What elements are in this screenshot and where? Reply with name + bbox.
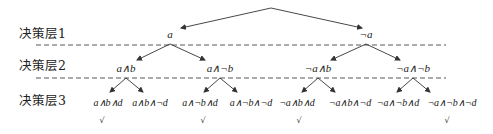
decision-tree-diagram: 决策层1 决策层2 决策层3 a ¬a a∧b a∧¬b ¬a∧b ¬a∧¬b … bbox=[0, 0, 493, 134]
edge-l2-3-left bbox=[302, 78, 318, 92]
edge-l2-1-right bbox=[126, 78, 143, 92]
leaf-node-3: a∧¬b∧d bbox=[182, 98, 218, 108]
layer-label-2: 决策层2 bbox=[19, 60, 66, 73]
node-not-a: ¬a bbox=[360, 29, 373, 40]
edge-root-not-a bbox=[271, 8, 362, 28]
edge-na-nab bbox=[331, 44, 366, 60]
edge-l2-1-left bbox=[110, 78, 126, 92]
check-mark-icon: √ bbox=[296, 117, 301, 125]
layer-label-3: 决策层3 bbox=[19, 95, 66, 108]
node-a-and-not-b: a∧¬b bbox=[207, 63, 233, 74]
check-mark-icon: √ bbox=[444, 117, 449, 125]
edge-l2-4-right bbox=[413, 78, 430, 92]
edge-root-a bbox=[181, 8, 271, 28]
edge-a-anb bbox=[170, 44, 205, 60]
leaf-node-4: a∧¬b∧¬d bbox=[230, 98, 273, 108]
check-mark-icon: √ bbox=[99, 117, 104, 125]
leaf-node-1: a∧b∧d bbox=[94, 98, 123, 108]
edge-l2-2-left bbox=[204, 78, 220, 92]
edge-l2-4-left bbox=[397, 78, 413, 92]
node-not-a-and-not-b: ¬a∧¬b bbox=[396, 63, 430, 74]
node-a: a bbox=[167, 29, 173, 40]
leaf-node-5: ¬a∧b∧d bbox=[279, 98, 315, 108]
check-mark-icon: √ bbox=[200, 117, 205, 125]
leaf-node-6: ¬a∧b∧¬d bbox=[329, 98, 372, 108]
leaf-node-2: a∧b∧¬d bbox=[132, 98, 168, 108]
edge-a-ab bbox=[137, 44, 170, 60]
edge-l2-2-right bbox=[220, 78, 237, 92]
layer-label-1: 决策层1 bbox=[19, 28, 66, 41]
edge-l2-3-right bbox=[318, 78, 335, 92]
leaf-node-8: ¬a∧¬b∧¬d bbox=[427, 98, 476, 108]
node-not-a-and-b: ¬a∧b bbox=[305, 63, 331, 74]
leaf-node-7: ¬a∧¬b∧d bbox=[377, 98, 420, 108]
node-a-and-b: a∧b bbox=[117, 63, 136, 74]
edge-na-nanb bbox=[366, 44, 400, 60]
